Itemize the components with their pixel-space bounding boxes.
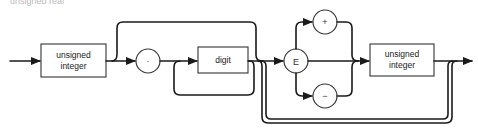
exponent-node: E: [284, 49, 308, 73]
first-box-line2: integer: [61, 61, 87, 71]
minus-branch-in: [296, 73, 312, 96]
second-box-line2: integer: [389, 60, 415, 70]
digit-box: digit: [198, 47, 248, 73]
heading-fragment: unsigned real: [10, 0, 64, 6]
plus-branch-in: [296, 22, 312, 49]
plus-branch-out: [337, 22, 358, 61]
first-unsigned-integer-box: unsigned integer: [41, 44, 106, 77]
minus-branch-out: [337, 61, 358, 96]
first-box-line1: unsigned: [56, 50, 91, 60]
second-unsigned-integer-box: unsigned integer: [370, 44, 434, 76]
minus-symbol: −: [322, 91, 327, 101]
syntax-diagram: unsigned real unsigned integer . digit E…: [0, 0, 478, 133]
plus-node: +: [313, 10, 337, 34]
decimal-point-node: .: [136, 49, 160, 73]
decimal-point-symbol: .: [147, 54, 150, 64]
second-box-line1: unsigned: [385, 49, 420, 59]
minus-node: −: [313, 84, 337, 108]
exponent-symbol: E: [293, 57, 299, 67]
plus-symbol: +: [322, 17, 327, 27]
digit-label: digit: [215, 55, 231, 65]
